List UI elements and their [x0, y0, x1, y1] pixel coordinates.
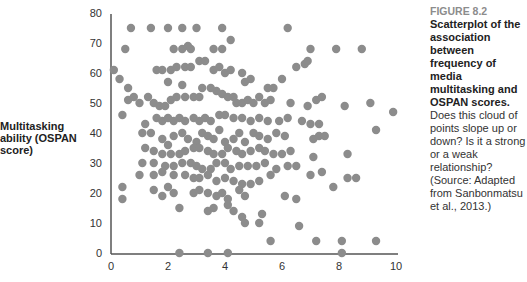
data-point: [181, 93, 189, 101]
data-point: [284, 24, 292, 32]
x-tick-label: 10: [390, 260, 402, 272]
data-point: [244, 162, 252, 170]
data-point: [209, 150, 217, 158]
data-point: [178, 24, 186, 32]
data-point: [207, 117, 215, 125]
y-tick-label: 60: [90, 67, 102, 79]
data-point: [241, 219, 249, 227]
data-point: [366, 99, 374, 107]
data-point: [286, 99, 294, 107]
data-point: [338, 237, 346, 245]
data-point: [209, 204, 217, 212]
data-point: [209, 45, 217, 53]
data-point: [198, 84, 206, 92]
data-point: [286, 147, 294, 155]
x-tick-label: 6: [279, 260, 285, 272]
data-point: [389, 108, 397, 116]
data-point: [221, 174, 229, 182]
data-point: [167, 150, 175, 158]
data-point: [318, 93, 326, 101]
scatterplot: 01020304050607080 0246810: [0, 0, 420, 282]
data-point: [141, 144, 149, 152]
data-point: [178, 81, 186, 89]
y-axis-ticks: 01020304050607080: [90, 7, 102, 259]
data-point: [292, 63, 300, 71]
data-point: [306, 45, 314, 53]
y-tick-label: 50: [90, 97, 102, 109]
data-point: [170, 45, 178, 53]
x-tick-label: 0: [108, 260, 114, 272]
data-point: [172, 63, 180, 71]
data-point: [332, 45, 340, 53]
data-point: [338, 249, 346, 257]
data-point: [224, 249, 232, 257]
data-point: [281, 192, 289, 200]
data-point: [118, 111, 126, 119]
data-point: [212, 177, 220, 185]
data-point: [150, 171, 158, 179]
data-point: [227, 165, 235, 173]
data-point: [130, 93, 138, 101]
data-point: [278, 75, 286, 83]
data-point: [258, 210, 266, 218]
figure-body: Does this cloud of points slope up or do…: [430, 109, 527, 213]
data-point: [306, 171, 314, 179]
data-point: [181, 171, 189, 179]
data-point: [218, 24, 226, 32]
data-point: [158, 168, 166, 176]
figure-caption: FIGURE 8.2 Scatterplot of the associatio…: [430, 5, 527, 213]
data-point: [255, 177, 263, 185]
data-point: [212, 159, 220, 167]
data-point: [241, 192, 249, 200]
data-point: [195, 93, 203, 101]
data-point: [264, 135, 272, 143]
data-point: [255, 219, 263, 227]
data-point: [158, 66, 166, 74]
data-point: [315, 120, 323, 128]
data-point: [164, 24, 172, 32]
data-point: [229, 114, 237, 122]
data-point: [175, 249, 183, 257]
y-tick-label: 10: [90, 217, 102, 229]
data-point: [187, 63, 195, 71]
data-point: [121, 45, 129, 53]
data-point: [264, 117, 272, 125]
data-point: [221, 111, 229, 119]
data-point: [343, 150, 351, 158]
data-point: [147, 129, 155, 137]
data-point: [195, 144, 203, 152]
data-point: [138, 129, 146, 137]
data-point: [292, 162, 300, 170]
data-points: [110, 24, 398, 257]
data-point: [115, 75, 123, 83]
data-point: [141, 120, 149, 128]
data-point: [150, 159, 158, 167]
data-point: [312, 237, 320, 245]
data-point: [181, 147, 189, 155]
data-point: [201, 57, 209, 65]
data-point: [170, 189, 178, 197]
data-point: [246, 75, 254, 83]
data-point: [170, 162, 178, 170]
data-point: [181, 117, 189, 125]
data-point: [150, 147, 158, 155]
data-point: [195, 174, 203, 182]
data-point: [372, 126, 380, 134]
data-point: [204, 249, 212, 257]
data-point: [178, 159, 186, 167]
data-point: [227, 36, 235, 44]
data-point: [187, 45, 195, 53]
data-point: [238, 114, 246, 122]
data-point: [318, 168, 326, 176]
figure-number: FIGURE 8.2: [430, 5, 527, 18]
data-point: [209, 135, 217, 143]
data-point: [269, 84, 277, 92]
data-point: [170, 171, 178, 179]
data-point: [252, 162, 260, 170]
data-point: [135, 171, 143, 179]
data-point: [138, 159, 146, 167]
data-point: [303, 102, 311, 110]
x-tick-label: 8: [336, 260, 342, 272]
data-point: [158, 150, 166, 158]
data-point: [164, 141, 172, 149]
